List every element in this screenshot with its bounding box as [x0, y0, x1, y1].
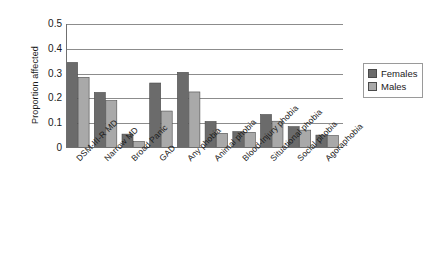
bar-chart-figure: Proportion affected 0.50.40.30.20.10 DSM…	[0, 0, 448, 267]
x-tick-label: GAD	[157, 143, 177, 163]
legend-label: Females	[381, 68, 417, 79]
chart-legend: FemalesMales	[363, 63, 423, 98]
legend-label: Males	[381, 81, 406, 92]
x-axis-tick-labels: DSM-III-R MDNarrow MDBroad PanicGADAny p…	[0, 0, 448, 267]
legend-swatch-icon	[368, 82, 377, 91]
legend-entry: Females	[368, 67, 417, 80]
legend-entry: Males	[368, 80, 417, 93]
legend-swatch-icon	[368, 69, 377, 78]
